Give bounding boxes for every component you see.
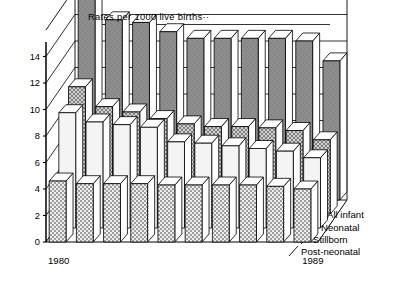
bar-post-neonatal-1989: [294, 181, 318, 242]
x-tick-label-1980: 1980: [48, 255, 69, 266]
y-tick-label-4: 4: [35, 184, 40, 194]
y-tick-label-8: 8: [35, 131, 40, 141]
left-wall-rib-top: [46, 0, 75, 30]
bar-post-neonatal-1985: [185, 177, 209, 242]
chart-figure: 02468101214Rates per 1000 live births··1…: [0, 0, 401, 283]
legend-label-all-infant: All infant: [327, 209, 364, 220]
y-tick-label-2: 2: [35, 211, 40, 221]
left-wall-rib-12: [46, 41, 75, 83]
legend-label-neonatal: Neonatal: [321, 222, 359, 233]
bar-post-neonatal-1986: [212, 177, 236, 242]
legend-leader-3: [289, 246, 298, 256]
grouped-3d-bar-chart: 02468101214Rates per 1000 live births··1…: [0, 0, 401, 283]
legend-label-stillborn: Stillborn: [313, 234, 348, 245]
y-tick-label-0: 0: [35, 237, 40, 247]
left-wall-rib-14: [46, 15, 75, 57]
y-tick-label-6: 6: [35, 158, 40, 168]
y-tick-label-14: 14: [30, 52, 40, 62]
y-tick-label-12: 12: [30, 78, 40, 88]
bar-post-neonatal-1980: [49, 173, 73, 242]
legend-label-post-neonatal: Post-neonatal: [301, 246, 360, 257]
bar-post-neonatal-1983: [131, 176, 155, 242]
bar-post-neonatal-1981: [76, 176, 100, 242]
bar-post-neonatal-1984: [158, 177, 182, 242]
bar-post-neonatal-1982: [104, 176, 128, 242]
bar-post-neonatal-1988: [267, 178, 291, 242]
bar-post-neonatal-1987: [240, 177, 264, 242]
y-tick-label-10: 10: [30, 105, 40, 115]
chart-title: Rates per 1000 live births··: [88, 12, 209, 22]
